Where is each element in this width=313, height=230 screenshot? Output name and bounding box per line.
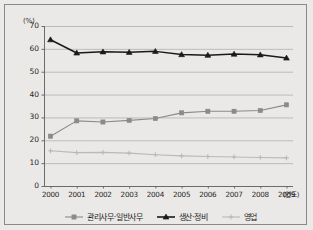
y-tick-label: 30	[23, 112, 39, 121]
x-tick-label: 2007	[222, 190, 246, 199]
legend-marker-icon	[64, 212, 84, 222]
y-tick-label: 20	[23, 135, 39, 144]
series-triangle	[48, 37, 290, 60]
legend-label: 관리사무·일반사무	[87, 211, 143, 222]
x-axis-unit-label: (연도)	[283, 189, 299, 199]
legend-item[interactable]: 영업	[221, 211, 257, 222]
x-tick-label: 2002	[91, 190, 115, 199]
legend-label: 생산·정비	[179, 211, 208, 222]
y-tick-label: 0	[23, 181, 39, 190]
legend-item[interactable]: 관리사무·일반사무	[64, 211, 143, 222]
y-tick-label: 50	[23, 67, 39, 76]
gridlines	[44, 27, 293, 164]
x-tick-label: 2005	[170, 190, 194, 199]
axis-lines	[44, 26, 293, 187]
x-tick-label: 2001	[65, 190, 89, 199]
y-tick-label: 10	[23, 158, 39, 167]
axis-ticks	[42, 27, 288, 189]
y-tick-label: 70	[23, 21, 39, 30]
x-tick-label: 2003	[117, 190, 141, 199]
chart-legend: 관리사무·일반사무생산·정비영업	[11, 211, 310, 222]
x-tick-label: 2006	[196, 190, 220, 199]
chart-figure: (%) 010203040506070 20002001200220032004…	[0, 0, 313, 230]
data-series-layer	[48, 37, 290, 160]
series-square	[48, 103, 288, 139]
legend-marker-icon	[221, 212, 241, 222]
chart-frame: (%) 010203040506070 20002001200220032004…	[4, 4, 307, 225]
x-tick-label: 2000	[39, 190, 63, 199]
y-tick-label: 40	[23, 90, 39, 99]
y-tick-label: 60	[23, 44, 39, 53]
legend-marker-icon	[156, 212, 176, 222]
x-tick-label: 2008	[248, 190, 272, 199]
legend-item[interactable]: 생산·정비	[156, 211, 208, 222]
legend-label: 영업	[244, 211, 257, 222]
series-plus	[48, 148, 289, 160]
x-tick-label: 2004	[143, 190, 167, 199]
